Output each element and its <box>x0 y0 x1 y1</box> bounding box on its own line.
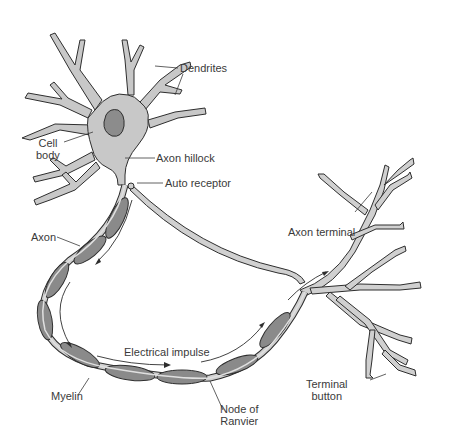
auto-receptor <box>128 183 134 189</box>
impulse-arrow <box>60 282 70 345</box>
axon-terminal-branch <box>382 350 416 376</box>
label-terminal-line2: button <box>306 390 348 402</box>
label-axon-terminal: Axon terminal <box>288 226 355 238</box>
myelin-sheath <box>35 299 56 341</box>
axon-terminal-branch <box>366 330 375 378</box>
label-cell-body-line1: Cell <box>36 137 60 149</box>
label-node-of-ranvier: Node of Ranvier <box>220 403 259 427</box>
label-terminal-line1: Terminal <box>306 378 348 390</box>
axon-collateral <box>130 186 305 284</box>
myelin-sheath <box>104 363 155 384</box>
dendrite <box>148 108 206 128</box>
axon-terminal-branch <box>350 222 404 240</box>
label-cell-body-line2: body <box>36 149 60 161</box>
label-auto-receptor: Auto receptor <box>165 177 231 189</box>
label-terminal-button: Terminal button <box>306 378 348 402</box>
label-cell-body: Cell body <box>36 137 60 161</box>
label-node-line2: Ranvier <box>220 415 259 427</box>
myelin-sheath <box>70 232 110 268</box>
label-axon-hillock: Axon hillock <box>156 152 215 164</box>
label-myelin: Myelin <box>51 390 83 402</box>
label-electrical-impulse: Electrical impulse <box>124 346 210 358</box>
nucleus <box>104 110 124 137</box>
neuron-diagram <box>0 0 455 445</box>
axon-terminal-branch <box>318 174 368 215</box>
dendrite <box>122 40 144 95</box>
label-dendrites: Dendrites <box>180 62 227 74</box>
label-axon: Axon <box>31 231 56 243</box>
label-node-line1: Node of <box>220 403 259 415</box>
